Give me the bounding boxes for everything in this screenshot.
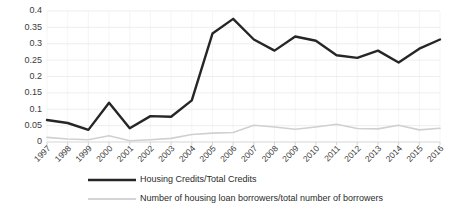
x-axis-tick-label: 2001 <box>115 143 136 164</box>
x-axis-tick-label: 2008 <box>259 143 280 164</box>
x-axis-tick-label: 2006 <box>218 143 239 164</box>
x-axis-tick-label: 2009 <box>280 143 301 164</box>
y-axis-tick-label: 0 <box>37 136 42 146</box>
x-axis-tick-label: 2015 <box>404 143 425 164</box>
x-axis-tick-label: 2013 <box>363 143 384 164</box>
x-axis-tick-label: 2016 <box>425 143 446 164</box>
x-axis-labels: 1997199819992000200120022003200420052006… <box>32 143 446 164</box>
chart-container: 00.050.10.150.20.250.30.350.4 1997199819… <box>0 0 451 209</box>
y-axis-tick-label: 0.3 <box>29 38 42 48</box>
series-lines <box>47 19 440 141</box>
y-axis-tick-label: 0.15 <box>24 87 42 97</box>
x-axis-tick-label: 2002 <box>135 143 156 164</box>
y-axis-labels: 00.050.10.150.20.250.30.350.4 <box>24 5 42 146</box>
x-axis-tick-label: 1998 <box>53 143 74 164</box>
chart-legend: Housing Credits/Total CreditsNumber of h… <box>88 174 384 203</box>
y-axis-tick-label: 0.25 <box>24 55 42 65</box>
x-axis-tick-label: 1997 <box>32 143 53 164</box>
y-axis-tick-label: 0.2 <box>29 71 42 81</box>
series-line-1 <box>47 19 440 130</box>
y-axis-tick-label: 0.05 <box>24 120 42 130</box>
line-chart: 00.050.10.150.20.250.30.350.4 1997199819… <box>0 0 451 209</box>
x-axis-tick-label: 2011 <box>322 143 342 163</box>
y-axis-tick-label: 0.35 <box>24 22 42 32</box>
x-axis-tick-label: 2014 <box>384 143 405 164</box>
x-axis-tick-label: 2012 <box>342 143 363 164</box>
y-axis-tick-label: 0.1 <box>29 104 42 114</box>
x-axis-tick-label: 2010 <box>301 143 322 164</box>
x-axis-tick-label: 2000 <box>94 143 115 164</box>
x-axis-tick-label: 2007 <box>239 143 260 164</box>
legend-label-1: Housing Credits/Total Credits <box>140 174 257 184</box>
series-line-2 <box>47 124 440 140</box>
x-axis-tick-label: 2004 <box>177 143 198 164</box>
legend-label-2: Number of housing loan borrowers/total n… <box>140 193 384 203</box>
x-axis-tick-label: 1999 <box>73 143 94 164</box>
x-axis-tick-label: 2003 <box>156 143 177 164</box>
y-axis-tick-label: 0.4 <box>29 5 42 15</box>
x-axis-tick-label: 2005 <box>197 143 218 164</box>
